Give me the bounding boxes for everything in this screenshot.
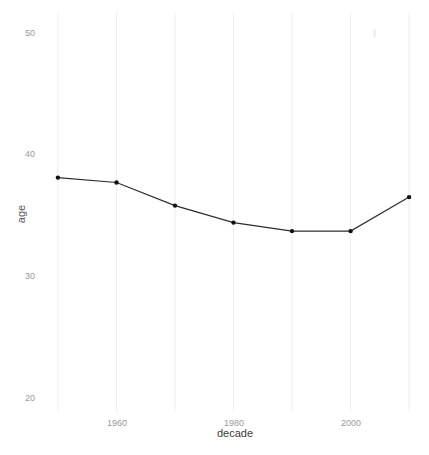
y-tick-label-50: 50 — [8, 29, 35, 38]
data-point-1950 — [56, 175, 60, 179]
data-point-2000 — [348, 229, 352, 233]
y-axis-title: age — [15, 205, 27, 223]
data-point-1980 — [231, 220, 235, 224]
data-point-1960 — [114, 180, 118, 184]
age-by-decade-line-chart: 50 40 30 20 1960 1980 2000 age decade — [0, 0, 429, 455]
y-tick-label-20: 20 — [8, 394, 35, 403]
data-point-1970 — [173, 203, 177, 207]
data-point-1990 — [290, 229, 294, 233]
x-tick-label-2000: 2000 — [331, 418, 371, 428]
x-tick-label-1960: 1960 — [97, 418, 137, 428]
y-tick-label-40: 40 — [8, 150, 35, 159]
plot-area — [0, 0, 429, 455]
faint-artifact-mark — [373, 29, 376, 37]
x-axis-title: decade — [185, 427, 285, 439]
y-tick-label-30: 30 — [8, 272, 35, 281]
data-point-2010 — [407, 195, 411, 199]
